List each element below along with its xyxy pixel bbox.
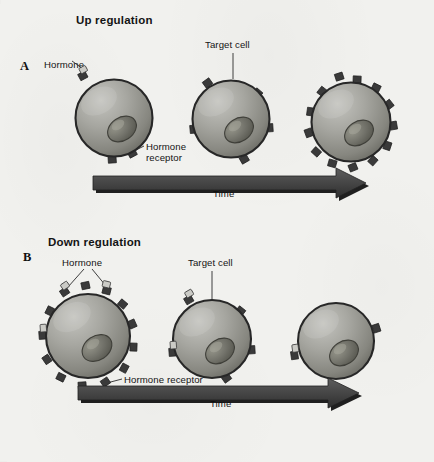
cell-b-1 [39,280,137,389]
panel-b-artwork [0,231,434,462]
panel-down-regulation: Down regulation B Hormone Target cell Ho… [0,231,434,462]
time-arrow-a [93,168,369,201]
cell-a-2 [190,78,274,164]
hormones-b-3 [292,344,299,352]
time-arrow-b [78,378,362,411]
cell-b-2 [169,289,256,383]
cell-a-3 [304,72,398,172]
panel-up-regulation: Up regulation A Hormone Target cell Horm… [0,0,434,231]
cell-a-1 [76,65,153,163]
panel-a-artwork [0,0,434,231]
cell-b-3 [291,303,381,379]
